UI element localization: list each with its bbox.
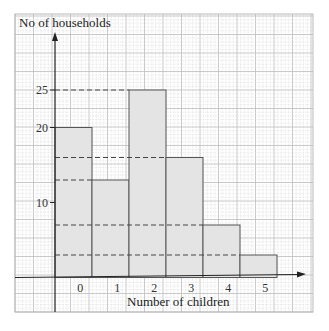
y-tick-label: 20 [36, 121, 48, 135]
x-tick-label: 5 [262, 281, 268, 295]
x-tick-label: 4 [225, 281, 231, 295]
x-tick-label: 0 [77, 281, 83, 295]
y-tick-label: 25 [36, 83, 48, 97]
x-tick-label: 2 [151, 281, 157, 295]
y-axis-arrow-icon [52, 32, 58, 41]
x-ticks: 012345 [77, 281, 268, 295]
x-axis-label: Number of children [127, 294, 230, 309]
histogram-chart: 102025 012345 No of households Number of… [0, 0, 329, 331]
y-tick-label: 10 [36, 196, 48, 210]
y-axis-label: No of households [19, 15, 111, 30]
x-tick-label: 1 [114, 281, 120, 295]
bar-2 [129, 90, 166, 278]
bar-1 [92, 180, 129, 278]
bar-3 [166, 158, 203, 278]
bar-5 [240, 255, 277, 278]
bar-4 [203, 225, 240, 278]
bars [55, 90, 277, 278]
x-tick-label: 3 [188, 281, 194, 295]
x-axis-arrow-icon [297, 272, 306, 278]
